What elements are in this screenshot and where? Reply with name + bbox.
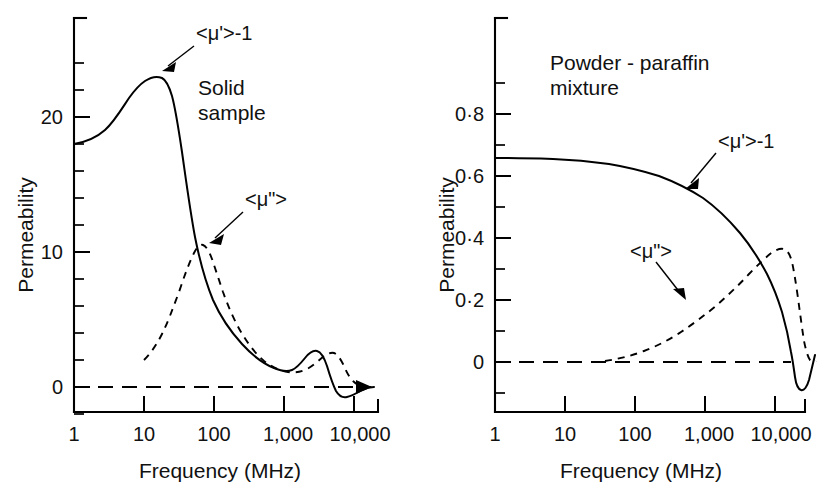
leader-mu-real	[168, 46, 194, 66]
panel-note-line2: sample	[198, 101, 266, 124]
y-tick-label-0-2: 0·2	[455, 289, 484, 311]
leader-mu-real	[691, 153, 716, 183]
y-tick-label-10: 10	[41, 241, 63, 263]
permeability-figure: <μ'>-1 <μ"> Solid sample 0 10 20 1 10 10…	[0, 0, 826, 493]
y-axis-title: Permeability	[435, 177, 458, 293]
x-axis-title: Frequency (MHz)	[139, 459, 301, 482]
chart-svg-solid-sample: <μ'>-1 <μ"> Solid sample 0 10 20 1 10 10…	[0, 0, 413, 493]
x-tick-label-1000: 1,000	[684, 423, 734, 445]
curve-label-mu-real: <μ'>-1	[718, 130, 774, 152]
chart-panel-powder-paraffin: <μ'>-1 <μ"> Powder - paraffin mixture 0 …	[413, 0, 826, 493]
curve-mu-real-solid-sample	[74, 77, 374, 397]
chart-panel-solid-sample: <μ'>-1 <μ"> Solid sample 0 10 20 1 10 10…	[0, 0, 413, 493]
panel-note-line1: Solid	[198, 76, 245, 99]
y-tick-label-0: 0	[473, 351, 484, 373]
chart-svg-powder-paraffin: <μ'>-1 <μ"> Powder - paraffin mixture 0 …	[413, 0, 826, 493]
y-tick-label-0-4: 0·4	[455, 227, 484, 249]
x-tick-label-10: 10	[133, 423, 155, 445]
x-tick-label-1: 1	[68, 423, 79, 445]
curve-mu-imag-solid-sample	[144, 245, 375, 387]
x-tick-label-10000: 10,000	[329, 423, 390, 445]
x-tick-label-1000: 1,000	[263, 423, 313, 445]
leader-mu-imag-arrow-icon	[209, 234, 224, 245]
y-tick-label-0: 0	[52, 376, 63, 398]
x-tick-label-100: 100	[618, 423, 651, 445]
leader-mu-imag-arrow-icon	[673, 288, 686, 300]
y-tick-label-20: 20	[41, 106, 63, 128]
x-tick-label-1: 1	[489, 423, 500, 445]
x-tick-label-10000: 10,000	[750, 423, 811, 445]
x-axis-title: Frequency (MHz)	[560, 459, 722, 482]
leader-mu-imag	[215, 212, 243, 238]
x-tick-label-100: 100	[197, 423, 230, 445]
curve-mu-imag-powder-paraffin	[605, 249, 816, 362]
curve-label-mu-imag: <μ">	[245, 188, 287, 210]
curve-label-mu-real: <μ'>-1	[196, 22, 252, 44]
curve-label-mu-imag: <μ">	[630, 240, 672, 262]
y-axis-title: Permeability	[14, 177, 37, 293]
x-tick-label-10: 10	[554, 423, 576, 445]
y-tick-label-0-8: 0·8	[455, 103, 484, 125]
panel-note-line1: Powder - paraffin	[550, 51, 710, 74]
leader-mu-real-arrow-icon	[162, 62, 176, 72]
curve-mu-real-powder-paraffin	[495, 158, 815, 390]
leader-mu-real-arrow-icon	[685, 178, 699, 189]
y-tick-label-0-6: 0·6	[455, 165, 484, 187]
panel-note-line2: mixture	[550, 76, 619, 99]
